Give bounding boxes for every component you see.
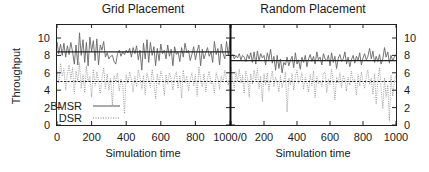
y-tick-label-left: 8 [44,49,50,61]
y-tick-label-right: 0 [404,119,410,131]
x-tick-label: 600 [321,131,339,143]
x-tick-label: 1000 [384,131,408,143]
legend-label-bmsr: BMSR [50,100,82,112]
x-tick-label: 0 [54,131,60,143]
x-tick-label: 800 [186,131,204,143]
y-tick-label-right: 8 [404,49,410,61]
series-dsr-line [57,62,230,113]
right-plot-frame [231,25,397,126]
y-tick-label-left: 2 [44,102,50,114]
x-tick-label: 600 [152,131,170,143]
series-dsr-line [231,68,396,122]
right-chart-title: Random Placement [260,2,366,16]
x-tick-label: 1000/0 [213,131,247,143]
y-tick-label-left: 10 [38,32,50,44]
y-tick-label-right: 2 [404,102,410,114]
left-chart-title: Grid Placement [102,2,185,16]
legend-label-dsr: DSR [59,112,82,124]
x-tick-label: 200 [82,131,100,143]
y-tick-label-left: 6 [44,67,50,79]
y-tick-label-left: 0 [44,119,50,131]
y-axis-label: Throughput [10,48,22,104]
y-tick-label-right: 10 [404,32,416,44]
left-x-axis-label: Simulation time [105,147,180,159]
figure: Grid Placement Random Placement Throughp… [0,0,429,172]
x-tick-label: 400 [117,131,135,143]
y-tick-label-left: 4 [44,84,50,96]
right-plot-area [231,48,396,122]
x-tick-label: 400 [288,131,306,143]
x-tick-label: 800 [354,131,372,143]
legend: BMSR DSR [50,100,120,124]
left-plot-area [57,33,230,114]
y-tick-label-right: 6 [404,67,410,79]
right-x-axis-label: Simulation time [275,147,350,159]
x-tick-label: 200 [255,131,273,143]
y-tick-label-right: 4 [404,84,410,96]
